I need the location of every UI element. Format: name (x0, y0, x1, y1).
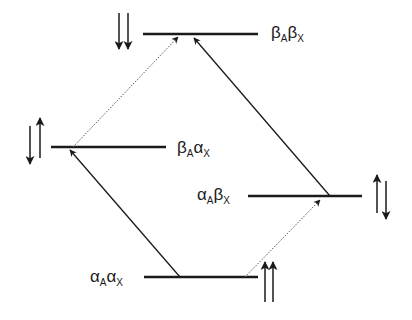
spin-down-up-icon (30, 118, 40, 164)
transition-ba-bb (73, 37, 178, 147)
transition-ab-bb (194, 38, 330, 196)
transition-aa-ab (245, 200, 320, 277)
spin-up-up-icon (265, 262, 273, 302)
energy-level-diagram (0, 0, 412, 320)
level-label-bb: βAβX (271, 24, 304, 41)
level-label-ba: βAαX (177, 139, 210, 156)
spin-down-down-icon (119, 13, 128, 49)
spin-up-down-icon (377, 175, 386, 219)
transition-aa-ba (70, 150, 180, 277)
level-label-ab: αAβX (197, 186, 230, 203)
level-label-aa: αAαX (90, 268, 123, 285)
